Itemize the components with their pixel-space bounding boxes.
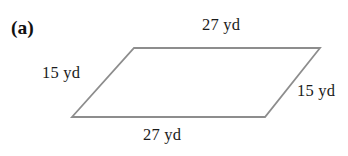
side-label-left: 15 yd: [42, 65, 80, 82]
parallelogram-shape: [72, 48, 320, 117]
geometry-figure-container: (a) 27 yd 15 yd 15 yd 27 yd: [0, 0, 348, 156]
side-label-bottom: 27 yd: [143, 127, 181, 144]
side-label-right: 15 yd: [297, 83, 335, 100]
side-label-top: 27 yd: [202, 17, 240, 34]
